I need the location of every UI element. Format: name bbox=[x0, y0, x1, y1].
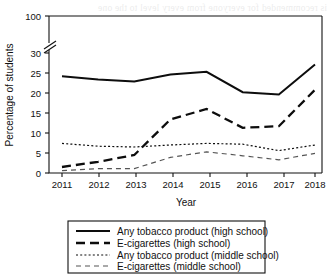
x-tick-label-2011: 2011 bbox=[52, 179, 72, 190]
y-tick-label-15: 15 bbox=[30, 108, 41, 119]
y-axis-lower-and-x-axis bbox=[49, 50, 322, 173]
y-axis-ticks bbox=[45, 16, 49, 173]
y-axis-title: Percentage of students bbox=[4, 44, 15, 147]
legend-label-ecigarettes-high-school: E-cigarettes (high school) bbox=[117, 238, 230, 249]
plot-frame bbox=[49, 16, 322, 173]
x-tick-label-2017: 2017 bbox=[273, 179, 294, 190]
y-tick-label-25: 25 bbox=[30, 68, 41, 79]
x-tick-label-2016: 2016 bbox=[236, 179, 257, 190]
y-tick-label-0: 0 bbox=[36, 168, 41, 179]
x-axis-ticks bbox=[62, 173, 315, 177]
series-line-ecigarettes-high-school bbox=[62, 90, 315, 167]
chart-legend: Any tobacco product (high school) E-ciga… bbox=[68, 221, 279, 273]
y-tick-label-30: 30 bbox=[30, 48, 41, 59]
chart-figure: is recommended for everyone from every l… bbox=[0, 0, 333, 279]
y-tick-label-10: 10 bbox=[30, 128, 41, 139]
legend-label-any-tobacco-middle-school: Any tobacco product (middle school) bbox=[117, 250, 279, 261]
x-axis-tick-labels: 2011 2012 2013 2014 2015 2016 2017 2018 bbox=[52, 179, 326, 190]
series-line-any-tobacco-high-school bbox=[62, 65, 315, 95]
line-chart: 0 5 10 15 20 25 30 100 Percentage of stu… bbox=[0, 0, 333, 279]
legend-label-any-tobacco-high-school: Any tobacco product (high school) bbox=[117, 226, 268, 237]
series-line-ecigarettes-middle-school bbox=[62, 152, 315, 171]
x-tick-label-2013: 2013 bbox=[125, 179, 146, 190]
series-line-any-tobacco-middle-school bbox=[62, 143, 315, 150]
x-tick-label-2012: 2012 bbox=[88, 179, 109, 190]
y-tick-label-5: 5 bbox=[36, 148, 41, 159]
y-tick-label-100: 100 bbox=[25, 11, 41, 22]
legend-label-ecigarettes-middle-school: E-cigarettes (middle school) bbox=[117, 261, 241, 272]
x-tick-label-2014: 2014 bbox=[162, 179, 183, 190]
x-tick-label-2015: 2015 bbox=[199, 179, 220, 190]
y-axis-break-icon bbox=[44, 41, 56, 53]
y-tick-label-20: 20 bbox=[30, 88, 41, 99]
y-axis-tick-labels: 0 5 10 15 20 25 30 100 bbox=[25, 11, 41, 179]
x-axis-title: Year bbox=[176, 197, 197, 208]
x-tick-label-2018: 2018 bbox=[304, 179, 325, 190]
series-group bbox=[62, 65, 315, 171]
